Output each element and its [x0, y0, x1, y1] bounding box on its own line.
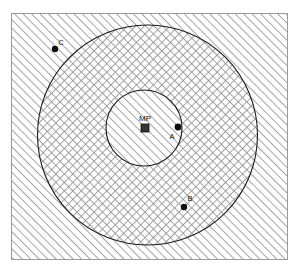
point-a-label: A [169, 132, 174, 141]
point-c-label: C [58, 38, 64, 47]
point-a-dot [175, 124, 182, 131]
zone-map-svg: MP A B C [0, 0, 299, 275]
point-c-dot [52, 46, 58, 52]
zone-map-figure: MP A B C [0, 0, 299, 275]
mp-square-icon [141, 124, 149, 132]
mp-label: MP [139, 114, 151, 123]
point-b-dot [181, 204, 187, 210]
point-b-label: B [187, 194, 192, 203]
